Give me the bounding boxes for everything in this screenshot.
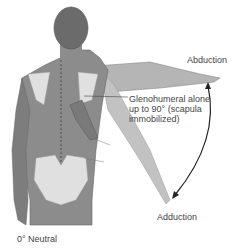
- head: [54, 7, 88, 49]
- neutral-label: 0° Neutral: [17, 234, 57, 244]
- glenohumeral-line-2: up to 90° (scapula: [129, 104, 210, 114]
- shoulder-abduction-diagram: [0, 0, 232, 251]
- adduction-label: Adduction: [157, 212, 197, 222]
- glenohumeral-line-1: Glenohumeral alone: [129, 94, 210, 104]
- glenohumeral-label: Glenohumeral alone up to 90° (scapula im…: [129, 94, 210, 124]
- abduction-label: Abduction: [187, 55, 227, 65]
- glenohumeral-line-3: immobilized): [129, 114, 210, 124]
